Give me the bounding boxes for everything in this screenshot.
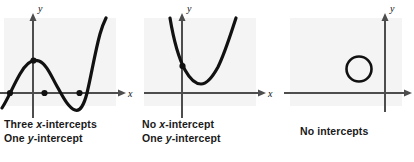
x-axis-label: x: [267, 88, 273, 99]
intercepts-figure: y x Three x-intercepts One y-intercept: [0, 0, 414, 162]
plot-area-cubic: y x: [0, 0, 138, 118]
panel-three-intercepts: y x Three x-intercepts One y-intercept: [0, 0, 138, 162]
x-intercept-dot: [41, 90, 47, 96]
y-intercept-dot: [179, 63, 185, 69]
x-intercept-dot: [7, 90, 13, 96]
y-axis-label: y: [389, 3, 395, 14]
caption-line-2: One y-intercept: [142, 132, 276, 146]
panel-no-intercepts: y No intercepts: [276, 0, 414, 162]
plot-area-circle: y: [276, 0, 414, 118]
y-axis-label: y: [186, 3, 192, 14]
caption-line-1: Three x-intercepts: [4, 118, 138, 132]
caption-no-intercepts: No intercepts: [300, 125, 414, 139]
caption-line-1: No intercepts: [300, 125, 414, 139]
panel-no-x-intercept: y x No x-intercept One y-intercept: [140, 0, 278, 162]
caption-no-x-intercept: No x-intercept One y-intercept: [142, 118, 276, 145]
y-axis-label: y: [37, 3, 43, 14]
caption-line-2: One y-intercept: [4, 132, 138, 146]
plot-area-parabola: y x: [140, 0, 278, 118]
x-intercept-dot: [76, 90, 82, 96]
x-axis-label: x: [127, 88, 133, 99]
y-intercept-dot: [30, 57, 36, 63]
caption-three-intercepts: Three x-intercepts One y-intercept: [4, 118, 138, 145]
caption-line-1: No x-intercept: [142, 118, 276, 132]
